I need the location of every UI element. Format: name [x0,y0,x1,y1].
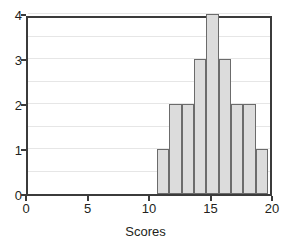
histogram-bar [206,14,218,194]
x-axis-tick-labels: 05101520 [26,202,272,218]
histogram-bar [231,104,243,194]
x-axis-tick-label: 15 [196,202,226,216]
x-axis-tick-label: 0 [11,202,41,216]
y-axis-tick-label: 0 [0,189,22,202]
y-axis-tick-label: 1 [0,144,22,157]
plot-area [26,16,272,196]
histogram-bar [243,104,255,194]
histogram-bar [219,59,231,194]
y-axis-tick-labels: 01234 [0,16,22,196]
x-axis-tick-label: 10 [134,202,164,216]
x-axis-title: Scores [0,224,291,239]
histogram-bar [157,149,169,194]
y-axis-tick-label: 4 [0,9,22,22]
bars-layer [28,18,270,194]
histogram-chart: 01234 05101520 Scores [0,0,291,248]
y-axis-tick-label: 3 [0,54,22,67]
histogram-bar [182,104,194,194]
y-axis-tick-label: 2 [0,99,22,112]
x-axis-tick-label: 5 [73,202,103,216]
histogram-bar [256,149,268,194]
x-axis-tick-label: 20 [257,202,287,216]
gridline [28,13,270,14]
histogram-bar [194,59,206,194]
histogram-bar [169,104,181,194]
